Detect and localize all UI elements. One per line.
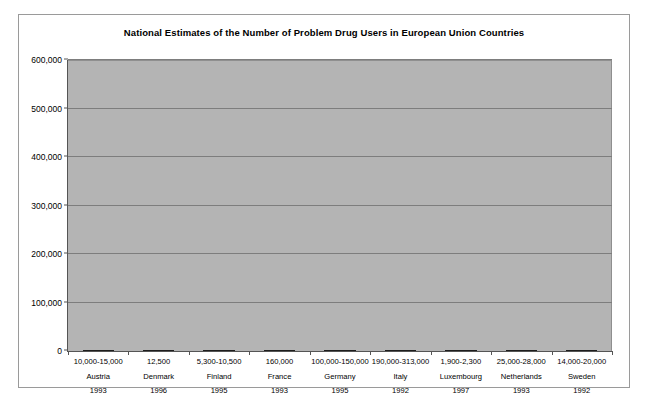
bar-series	[68, 60, 612, 351]
bar-slot	[189, 60, 249, 351]
x-axis-line	[67, 351, 612, 352]
x-axis-label-france: 160,000France1993	[249, 355, 309, 399]
x-axis-label-austria: 10,000-15,000Austria1993	[68, 355, 128, 399]
bar-segment-lower	[264, 350, 295, 351]
country-name: Luxembourg	[431, 370, 491, 385]
bar-slot	[310, 60, 370, 351]
country-name: Italy	[370, 370, 430, 385]
bar-austria[interactable]	[83, 350, 114, 351]
country-name: France	[249, 370, 309, 385]
bar-segment-upper	[83, 350, 114, 351]
y-axis-tick-label: 300,000	[31, 201, 62, 211]
bar-sweden[interactable]	[566, 350, 597, 351]
bar-luxembourg[interactable]	[445, 350, 476, 351]
bar-segment-upper	[203, 350, 234, 351]
plot-wrapper: 0100,000200,000300,000400,000500,000600,…	[68, 60, 612, 351]
bar-segment-lower	[143, 350, 174, 351]
x-axis-tick-mark	[612, 351, 613, 355]
bar-slot	[249, 60, 309, 351]
x-axis-labels: 10,000-15,000Austria199312,500Denmark199…	[68, 355, 612, 401]
year-value: 1992	[370, 384, 430, 399]
bar-germany[interactable]	[324, 350, 355, 351]
year-value: 1995	[189, 384, 249, 399]
year-value: 1992	[552, 384, 612, 399]
estimate-value: 1,900-2,300	[431, 355, 491, 370]
y-axis-tick-label: 600,000	[31, 55, 62, 65]
chart-figure: National Estimates of the Number of Prob…	[18, 14, 630, 388]
x-axis-label-denmark: 12,500Denmark1996	[128, 355, 188, 399]
estimate-value: 100,000-150,000	[310, 355, 370, 370]
x-axis-label-italy: 190,000-313,000Italy1992	[370, 355, 430, 399]
estimate-value: 25,000-28,000	[491, 355, 551, 370]
chart-title: National Estimates of the Number of Prob…	[19, 27, 629, 38]
year-value: 1993	[249, 384, 309, 399]
x-axis-label-luxembourg: 1,900-2,300Luxembourg1997	[431, 355, 491, 399]
country-name: Denmark	[128, 370, 188, 385]
y-axis-tick-label: 400,000	[31, 152, 62, 162]
bar-slot	[431, 60, 491, 351]
year-value: 1997	[431, 384, 491, 399]
bar-segment-upper	[385, 350, 416, 351]
bar-segment-upper	[324, 350, 355, 351]
bar-segment-upper	[445, 350, 476, 351]
x-axis-label-germany: 100,000-150,000Germany1995	[310, 355, 370, 399]
estimate-value: 160,000	[249, 355, 309, 370]
y-axis-tick-label: 500,000	[31, 104, 62, 114]
estimate-value: 12,500	[128, 355, 188, 370]
country-name: Netherlands	[491, 370, 551, 385]
y-axis-tick-label: 0	[57, 346, 62, 356]
bar-segment-upper	[506, 350, 537, 351]
y-axis-tick-label: 200,000	[31, 249, 62, 259]
country-name: Austria	[68, 370, 128, 385]
bar-slot	[68, 60, 128, 351]
x-axis-label-finland: 5,300-10,500Finland1995	[189, 355, 249, 399]
bar-slot	[552, 60, 612, 351]
estimate-value: 10,000-15,000	[68, 355, 128, 370]
year-value: 1993	[491, 384, 551, 399]
country-name: Finland	[189, 370, 249, 385]
x-axis-label-sweden: 14,000-20,000Sweden1992	[552, 355, 612, 399]
bar-slot	[370, 60, 430, 351]
y-axis-tick-label: 100,000	[31, 298, 62, 308]
bar-slot	[491, 60, 551, 351]
bar-denmark[interactable]	[143, 350, 174, 351]
bar-finland[interactable]	[203, 350, 234, 351]
bar-italy[interactable]	[385, 350, 416, 351]
country-name: Sweden	[552, 370, 612, 385]
country-name: Germany	[310, 370, 370, 385]
year-value: 1995	[310, 384, 370, 399]
bar-netherlands[interactable]	[506, 350, 537, 351]
estimate-value: 190,000-313,000	[370, 355, 430, 370]
year-value: 1996	[128, 384, 188, 399]
bar-segment-upper	[566, 350, 597, 351]
x-axis-label-netherlands: 25,000-28,000Netherlands1993	[491, 355, 551, 399]
year-value: 1993	[68, 384, 128, 399]
bar-slot	[128, 60, 188, 351]
estimate-value: 5,300-10,500	[189, 355, 249, 370]
bar-france[interactable]	[264, 350, 295, 351]
estimate-value: 14,000-20,000	[552, 355, 612, 370]
